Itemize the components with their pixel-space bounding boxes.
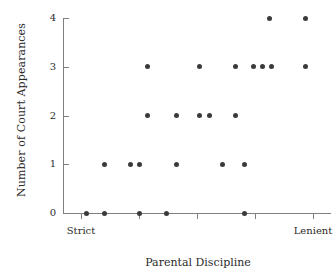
data-point: [137, 162, 142, 167]
y-tick-mark: [64, 116, 69, 117]
data-point: [220, 162, 225, 167]
data-point: [145, 113, 150, 118]
y-tick-label: 2: [50, 109, 56, 122]
x-tick-mark: [197, 214, 198, 219]
y-tick-mark: [64, 213, 69, 214]
data-point: [128, 162, 133, 167]
data-point: [242, 162, 247, 167]
x-tick-mark: [81, 214, 82, 219]
y-tick: 2: [63, 116, 69, 117]
y-axis-title: Number of Court Appearances: [14, 10, 30, 210]
y-tick: 1: [63, 164, 69, 165]
data-point: [242, 211, 247, 216]
data-point: [102, 162, 107, 167]
data-point: [267, 16, 272, 21]
y-tick: 3: [63, 67, 69, 68]
data-point: [269, 64, 274, 69]
data-point: [233, 64, 238, 69]
data-point: [197, 113, 202, 118]
y-tick-label: 4: [50, 11, 56, 24]
data-point: [207, 113, 212, 118]
data-point: [174, 113, 179, 118]
data-point: [197, 64, 202, 69]
data-point: [164, 211, 169, 216]
data-point: [84, 211, 89, 216]
y-tick-mark: [64, 164, 69, 165]
x-tick-mark: [255, 214, 256, 219]
data-point: [303, 16, 308, 21]
plot-area: 01234 StrictLenient: [63, 18, 331, 213]
data-point: [303, 64, 308, 69]
data-point: [145, 64, 150, 69]
x-tick-mark: [313, 214, 314, 219]
y-tick-mark: [64, 67, 69, 68]
x-axis-title: Parental Discipline: [60, 256, 336, 269]
data-point: [251, 64, 256, 69]
x-label-strict: Strict: [67, 224, 95, 237]
data-point: [137, 211, 142, 216]
data-point: [260, 64, 265, 69]
x-label-lenient: Lenient: [294, 224, 333, 237]
data-point: [102, 211, 107, 216]
y-tick-mark: [64, 18, 69, 19]
scatter-plot-figure: Number of Court Appearances Parental Dis…: [0, 0, 336, 279]
y-tick-label: 0: [50, 206, 56, 219]
data-point: [233, 113, 238, 118]
y-tick: 0: [63, 213, 69, 214]
y-tick-label: 1: [50, 157, 56, 170]
y-tick-label: 3: [50, 60, 56, 73]
y-tick: 4: [63, 18, 69, 19]
data-point: [174, 162, 179, 167]
